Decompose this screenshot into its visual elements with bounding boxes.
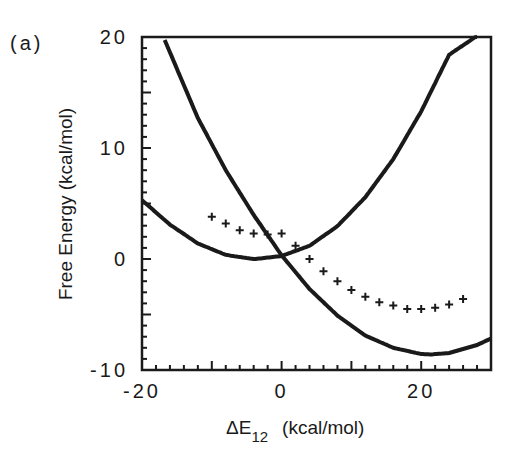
y-tick-label: -10 <box>90 359 128 381</box>
cross-marker <box>208 213 216 221</box>
curves <box>142 37 491 354</box>
free-energy-chart: (a) -1001020-20020 Free Energy (kcal/mol… <box>0 0 518 467</box>
cross-marker <box>445 301 453 309</box>
cross-marker <box>389 302 397 310</box>
cross-marker <box>347 286 355 294</box>
g1-parabola-line <box>142 37 477 259</box>
cross-marker <box>236 226 244 234</box>
y-tick-label: 0 <box>114 248 128 270</box>
cross-marker <box>278 229 286 237</box>
cross-marker <box>333 277 341 285</box>
y-tick-label: 20 <box>100 26 128 48</box>
x-tick-label: -20 <box>123 380 161 402</box>
cross-marker <box>417 305 425 313</box>
cross-marker <box>403 305 411 313</box>
x-axis-label: ΔE12(kcal/mol) <box>226 417 364 445</box>
panel-label: (a) <box>10 32 43 54</box>
cross-marker <box>375 298 383 306</box>
cross-marker <box>431 304 439 312</box>
x-tick-label: 20 <box>407 380 435 402</box>
x-axis-label-units: (kcal/mol) <box>282 417 364 438</box>
x-axis-label-main: ΔE <box>226 417 251 438</box>
x-axis-label-subscript: 12 <box>251 428 268 445</box>
cross-marker <box>222 219 230 227</box>
g2-parabola-line <box>165 40 491 354</box>
cross-marker <box>250 229 258 237</box>
cross-marker <box>319 267 327 275</box>
y-axis-label: Free Energy (kcal/mol) <box>55 108 76 300</box>
cross-marker <box>459 295 467 303</box>
y-tick-label: 10 <box>100 137 128 159</box>
cross-marker <box>306 255 314 263</box>
axis-ticks <box>142 37 491 370</box>
plot-frame <box>142 37 491 370</box>
x-tick-label: 0 <box>275 380 289 402</box>
cross-marker <box>361 293 369 301</box>
